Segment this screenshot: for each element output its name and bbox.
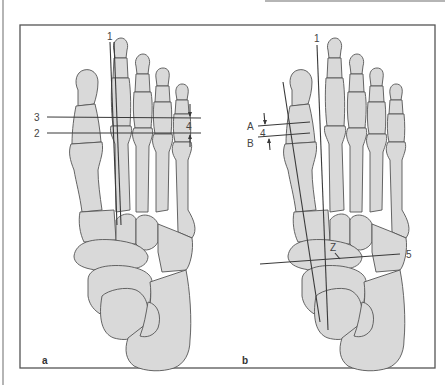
- arrowhead-up-b: [267, 138, 271, 143]
- label-1-a: 1: [107, 31, 113, 42]
- arrowhead-down-b: [263, 120, 267, 125]
- foot-skeleton-a: [70, 38, 195, 371]
- label-1-b: 1: [314, 33, 320, 44]
- panel-label-a: a: [42, 355, 48, 366]
- figure-canvas: 1 3 2 4 a 1 A B 4 5: [0, 0, 445, 385]
- label-a-b: A: [247, 121, 254, 132]
- label-b-b: B: [247, 138, 254, 149]
- label-4-a: 4: [186, 121, 192, 132]
- label-3-a: 3: [34, 112, 40, 123]
- panel-b: 1 A B 4 5 Z b: [242, 33, 412, 371]
- label-2-a: 2: [34, 128, 40, 139]
- panel-label-b: b: [242, 355, 248, 366]
- label-5-b: 5: [406, 249, 412, 260]
- label-4-b: 4: [260, 128, 266, 139]
- panel-a: 1 3 2 4 a: [34, 31, 201, 371]
- label-z-b: Z: [330, 242, 336, 253]
